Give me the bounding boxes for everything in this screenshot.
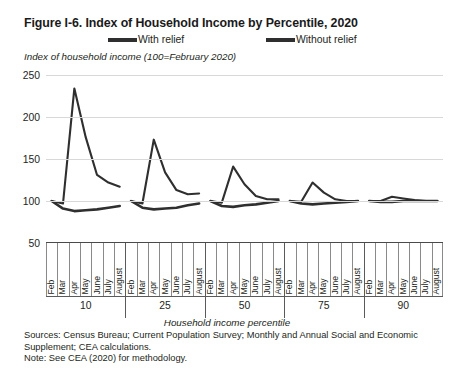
month-label: Mar	[376, 280, 385, 295]
month-tick: August	[352, 243, 363, 296]
month-label: Feb	[365, 280, 374, 295]
percentile-group-label-25: 25	[125, 296, 204, 318]
month-tick: June	[330, 243, 341, 296]
methodology-note: Note: See CEA (2020) for methodology.	[24, 353, 436, 365]
month-label-wrap: August	[115, 243, 125, 296]
month-label: June	[331, 276, 340, 295]
month-label-wrap: Mar	[217, 243, 227, 296]
month-label: July	[104, 280, 113, 295]
x-axis-caption: Household income percentile	[0, 317, 454, 328]
month-tick: May	[318, 243, 329, 296]
legend-item-without-relief: Without relief	[266, 33, 357, 47]
month-tick: August	[273, 243, 284, 296]
gridline	[46, 159, 443, 160]
page-title: Figure I-6. Index of Household Income by…	[24, 16, 434, 30]
legend-swatch-icon	[108, 38, 137, 41]
month-label: Apr	[149, 282, 158, 295]
legend-swatch-icon	[266, 38, 295, 41]
month-tick: July	[103, 243, 114, 296]
month-label: Apr	[70, 282, 79, 295]
gridline	[46, 75, 443, 76]
month-tick: Mar	[137, 243, 148, 296]
sources-line-1: Sources: Census Bureau; Current Populati…	[24, 330, 436, 342]
group-separator-tickband	[205, 243, 206, 296]
month-label: June	[92, 276, 101, 295]
month-tick: Apr	[69, 243, 80, 296]
month-tick: May	[398, 243, 409, 296]
month-label-wrap: June	[410, 243, 420, 296]
month-tick: June	[250, 243, 261, 296]
month-tick: July	[182, 243, 193, 296]
series-line-with-relief-p10	[52, 88, 120, 203]
month-label: August	[353, 268, 362, 295]
month-label-wrap: Apr	[70, 243, 80, 296]
month-tick: May	[80, 243, 91, 296]
month-label-wrap: Feb	[206, 243, 216, 296]
month-tick: Mar	[216, 243, 227, 296]
month-label: May	[240, 279, 249, 295]
month-label: August	[274, 268, 283, 295]
month-label-wrap: August	[274, 243, 284, 296]
month-label-wrap: May	[399, 243, 409, 296]
group-separator	[364, 296, 365, 318]
month-label-wrap: Apr	[308, 243, 318, 296]
gridline	[46, 201, 443, 202]
percentile-group-label-75: 75	[284, 296, 363, 318]
month-label-wrap: August	[353, 243, 363, 296]
month-tick: July	[341, 243, 352, 296]
group-separator-tickband	[284, 243, 285, 296]
month-label-wrap: May	[81, 243, 91, 296]
month-label-wrap: July	[263, 243, 273, 296]
percentile-group-label-10: 10	[46, 296, 125, 318]
figure-notes: Sources: Census Bureau; Current Populati…	[24, 330, 436, 365]
month-tick: Feb	[205, 243, 216, 296]
month-label-wrap: June	[251, 243, 261, 296]
series-line-with-relief-p25	[131, 140, 199, 204]
y-axis-tick-label: 200	[4, 112, 40, 123]
month-label: May	[81, 279, 90, 295]
month-label: Mar	[138, 280, 147, 295]
month-label-wrap: May	[240, 243, 250, 296]
month-label-wrap: July	[342, 243, 352, 296]
month-label: July	[342, 280, 351, 295]
month-label-wrap: Feb	[47, 243, 57, 296]
sources-line-2: Supplement; CEA calculations.	[24, 342, 436, 354]
month-tick: July	[262, 243, 273, 296]
month-label-wrap: July	[104, 243, 114, 296]
month-label-wrap: Mar	[58, 243, 68, 296]
month-tick: Mar	[57, 243, 68, 296]
month-label: July	[263, 280, 272, 295]
month-tick: August	[432, 243, 443, 296]
month-label: May	[319, 279, 328, 295]
gridline	[46, 117, 443, 118]
month-label: Mar	[217, 280, 226, 295]
month-label-wrap: June	[331, 243, 341, 296]
month-tick: June	[91, 243, 102, 296]
month-label-wrap: June	[92, 243, 102, 296]
month-label: June	[410, 276, 419, 295]
month-label-wrap: July	[183, 243, 193, 296]
month-label: Feb	[206, 280, 215, 295]
month-label: August	[432, 268, 441, 295]
month-label: June	[172, 276, 181, 295]
month-label: Mar	[58, 280, 67, 295]
month-label: Feb	[47, 280, 56, 295]
series-line-with-relief-p75	[290, 183, 358, 202]
month-label: August	[195, 268, 204, 295]
month-label-wrap: May	[160, 243, 170, 296]
month-tick: June	[409, 243, 420, 296]
plot-area: 50100150200250	[46, 75, 443, 243]
month-tick: Mar	[296, 243, 307, 296]
group-separator	[284, 296, 285, 318]
y-axis-tick-label: 100	[4, 196, 40, 207]
figure-container: Figure I-6. Index of Household Income by…	[0, 0, 454, 372]
percentile-group-band: 1025507590	[46, 296, 443, 318]
group-separator	[205, 296, 206, 318]
y-axis-caption: Index of household income (100=February …	[24, 51, 236, 62]
month-label-wrap: Feb	[285, 243, 295, 296]
group-separator-tickband	[364, 243, 365, 296]
month-tick-band: FebMarAprMayJuneJulyAugustFebMarAprMayJu…	[46, 243, 443, 297]
legend-label: With relief	[138, 33, 184, 47]
month-label: Feb	[126, 280, 135, 295]
month-tick: Feb	[46, 243, 57, 296]
